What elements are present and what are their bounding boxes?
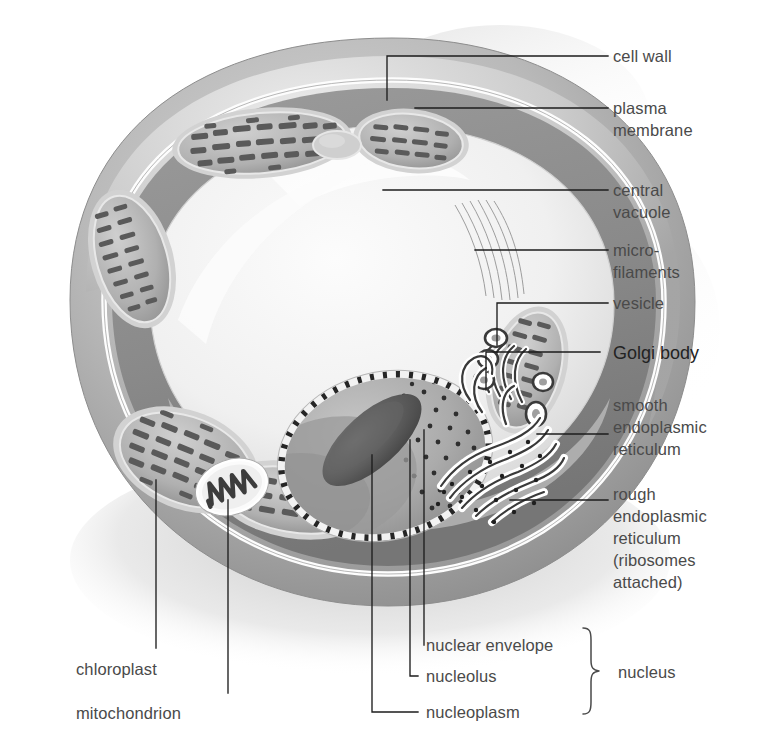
label-nucleolus: nucleolus [426,667,497,685]
label-cell-wall: cell wall [613,47,672,65]
label-vesicle: vesicle [613,294,664,312]
label-microfilaments-line1: micro- [613,241,659,259]
label-golgi-body: Golgi body [613,343,699,363]
label-central-vacuole-line2: vacuole [613,203,671,221]
label-nucleus-group: nucleus [618,663,676,681]
label-smooth-er-line2: endoplasmic [613,418,707,436]
label-plasma-membrane-line2: membrane [613,121,693,139]
label-rough-er-line4: (ribosomes [613,551,696,569]
label-rough-er-line1: rough [613,485,656,503]
label-plasma-membrane-line1: plasma [613,99,668,117]
label-rough-er-line5: attached) [613,573,683,591]
label-rough-er-line2: endoplasmic [613,507,707,525]
cell-diagram-canvas: cell wall plasma membrane central vacuol… [0,0,762,750]
label-chloroplast: chloroplast [76,660,157,678]
label-smooth-er-line3: reticulum [613,440,681,458]
label-mitochondrion: mitochondrion [76,704,181,722]
label-smooth-er-line1: smooth [613,396,668,414]
label-nucleoplasm: nucleoplasm [426,703,520,721]
vesicle [485,329,507,347]
label-central-vacuole-line1: central [613,181,663,199]
label-nuclear-envelope: nuclear envelope [426,636,553,654]
vesicle [533,373,553,391]
label-rough-er-line3: reticulum [613,529,681,547]
plant-cell-figure: cell wall plasma membrane central vacuol… [0,0,762,750]
vesicle [313,131,361,159]
label-microfilaments-line2: filaments [613,263,680,281]
